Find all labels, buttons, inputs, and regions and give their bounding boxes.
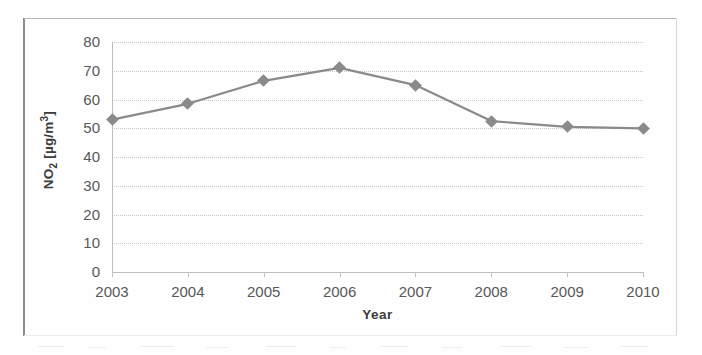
x-axis-tick-label: 2008 (456, 283, 526, 300)
x-axis-tick-label: 2006 (305, 283, 375, 300)
x-axis-tick-label: 2005 (229, 283, 299, 300)
y-axis-title-superscript: 3 (39, 116, 50, 122)
x-axis-tick-labels: 20032004200520062007200820092010 (0, 0, 702, 355)
x-axis-title: Year (112, 307, 643, 322)
y-axis-title: NO2 [µg/m3] (39, 80, 59, 220)
x-axis-tick-label: 2009 (532, 283, 602, 300)
scan-artifact (30, 344, 670, 350)
x-axis-tick-label: 2003 (77, 283, 147, 300)
y-axis-title-subscript: 2 (48, 163, 59, 169)
x-axis-tick-label: 2010 (608, 283, 678, 300)
x-axis-tick-label: 2004 (153, 283, 223, 300)
scanned-page: 80706050403020100 2003200420052006200720… (0, 0, 702, 355)
x-axis-tick-label: 2007 (380, 283, 450, 300)
